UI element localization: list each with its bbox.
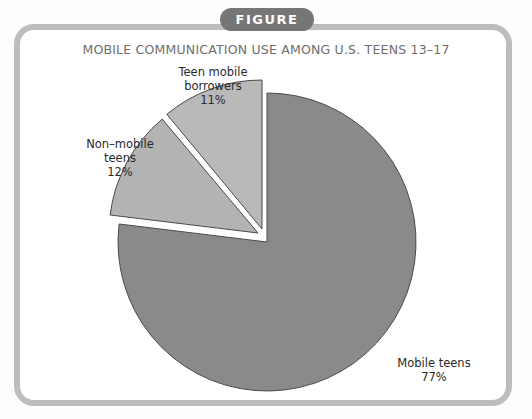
- label-mobile-line1: Mobile teens: [384, 356, 484, 370]
- chart-title: MOBILE COMMUNICATION USE AMONG U.S. TEEN…: [0, 42, 532, 57]
- label-borrowers-line2: borrowers: [168, 79, 258, 93]
- label-borrowers-line1: Teen mobile: [168, 65, 258, 79]
- label-mobile: Mobile teens 77%: [384, 356, 484, 384]
- label-mobile-value: 77%: [384, 370, 484, 384]
- label-borrowers-value: 11%: [168, 93, 258, 107]
- label-non-mobile: Non–mobile teens 12%: [78, 137, 162, 179]
- label-borrowers: Teen mobile borrowers 11%: [168, 65, 258, 107]
- label-non-mobile-line2: teens: [78, 151, 162, 165]
- label-non-mobile-value: 12%: [78, 165, 162, 179]
- label-non-mobile-line1: Non–mobile: [78, 137, 162, 151]
- figure-badge: FIGURE 13.1: [220, 8, 314, 31]
